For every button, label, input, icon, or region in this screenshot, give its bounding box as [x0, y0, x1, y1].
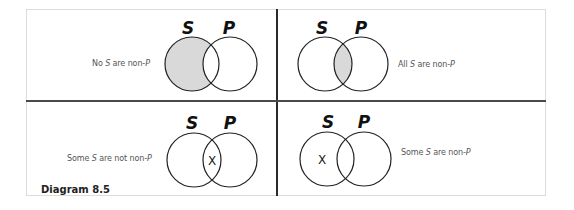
circle-p: [337, 132, 391, 186]
statement-text: Some: [67, 154, 92, 163]
statement-p: P: [145, 59, 150, 68]
statement-text: are non-: [110, 59, 145, 68]
statement-text: Some: [401, 148, 426, 157]
venn-panel-bottom-left: X S P: [167, 113, 257, 187]
venn-diagrams: S P S P X S P X S P: [0, 0, 574, 210]
statement-p: P: [147, 154, 152, 163]
set-label-s: S: [322, 112, 334, 132]
venn-panel-top-left: S P: [0, 0, 574, 210]
statement-text: No: [92, 59, 105, 68]
shaded-region-s-only: [0, 0, 574, 210]
circle-s: [300, 132, 354, 186]
set-label-p: P: [355, 18, 368, 38]
set-label-p: P: [358, 112, 371, 132]
x-mark-s-only: X: [318, 153, 326, 167]
x-mark-intersection: X: [208, 154, 216, 168]
diagram-caption: Diagram 8.5: [41, 184, 110, 195]
venn-panel-bottom-right: X S P: [300, 112, 391, 186]
statement-text: are non-: [431, 148, 466, 157]
statement-top-right: All S are non-P: [398, 60, 455, 69]
set-label-s: S: [316, 18, 328, 38]
statement-p: P: [466, 148, 471, 157]
set-label-p: P: [223, 18, 236, 38]
statement-text: are not non-: [97, 154, 147, 163]
set-label-s: S: [186, 113, 198, 133]
statement-bottom-left: Some S are not non-P: [67, 154, 152, 163]
set-label-p: P: [224, 113, 237, 133]
venn-panel-top-right: S P: [298, 18, 388, 91]
statement-p: P: [450, 60, 455, 69]
statement-bottom-right: Some S are non-P: [401, 148, 471, 157]
set-label-s: S: [182, 18, 194, 38]
statement-text: are non-: [415, 60, 450, 69]
statement-text: All: [398, 60, 410, 69]
statement-top-left: No S are non-P: [92, 59, 150, 68]
